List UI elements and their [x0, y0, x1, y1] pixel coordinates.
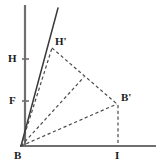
solid-ray-from-B — [21, 8, 58, 146]
point-label-H: H — [8, 53, 17, 64]
point-label-I: I — [115, 150, 119, 161]
geometry-figure: B H F H' B' I — [0, 0, 163, 166]
point-label-H-prime: H' — [55, 36, 67, 47]
figure-canvas — [0, 0, 163, 166]
dashed-segment-B-to-Bprime — [21, 104, 117, 146]
point-label-F: F — [9, 95, 16, 106]
point-label-B: B — [14, 150, 21, 161]
dashed-segment-Hprime-to-Bprime — [52, 48, 117, 104]
point-label-B-prime: B' — [121, 92, 131, 103]
